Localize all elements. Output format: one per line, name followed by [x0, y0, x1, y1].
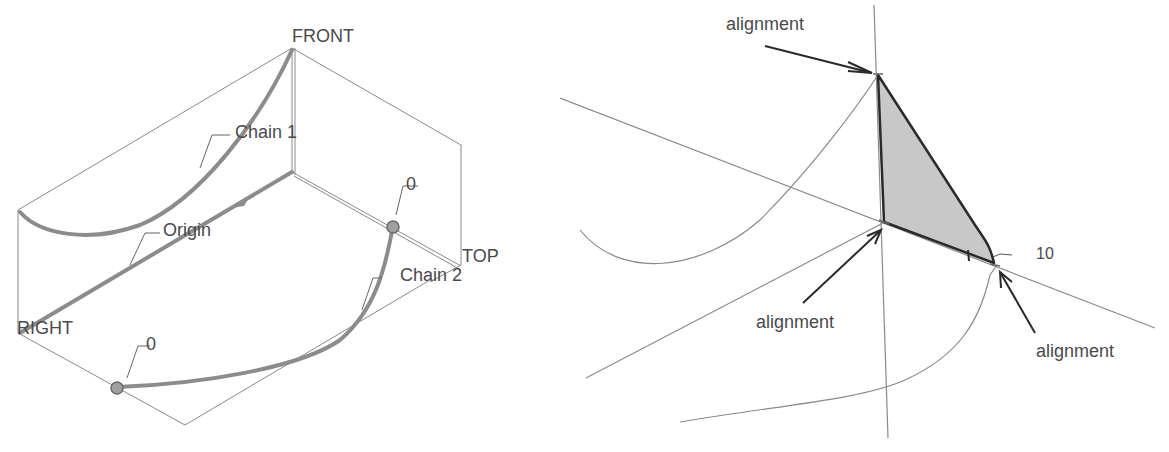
- callout-point-upper: 0: [406, 174, 416, 195]
- label-top: TOP: [462, 246, 499, 267]
- callout-alignment-right: alignment: [1036, 341, 1114, 362]
- right-diagram-svg: [560, 0, 1169, 452]
- callout-leaders: [127, 135, 418, 378]
- callout-chain-2: Chain 2: [400, 265, 462, 286]
- label-front: FRONT: [292, 26, 354, 47]
- left-diagram-svg: [0, 0, 560, 452]
- callout-alignment-middle: alignment: [756, 312, 834, 333]
- origin-line[interactable]: [20, 172, 292, 333]
- start-point-upper[interactable]: [387, 221, 399, 233]
- dimension-tick: [968, 250, 969, 261]
- left-diagram-panel: FRONT TOP RIGHT Chain 1 Origin Chain 2 0…: [0, 0, 560, 452]
- start-point-lower[interactable]: [111, 382, 123, 394]
- callout-alignment-top: alignment: [726, 14, 804, 35]
- callout-point-lower: 0: [146, 334, 156, 355]
- dimension-flag-icon: [993, 254, 1012, 257]
- callout-origin: Origin: [163, 220, 211, 241]
- right-diagram-panel: alignment alignment alignment 10: [560, 0, 1169, 452]
- label-right: RIGHT: [17, 318, 73, 339]
- callout-chain-1: Chain 1: [235, 122, 297, 143]
- shaded-surface[interactable]: [878, 75, 994, 263]
- dimension-value[interactable]: 10: [1036, 245, 1054, 263]
